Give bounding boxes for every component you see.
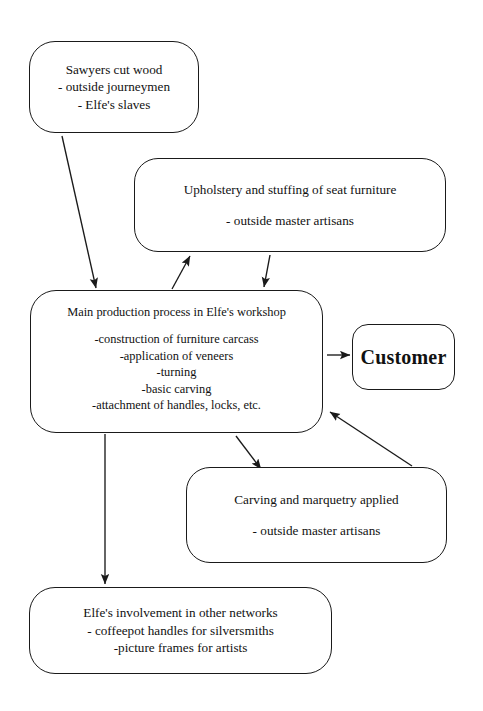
node-networks-line-2: - coffeepot handles for silversmiths xyxy=(87,622,274,639)
node-main-production-process: Main production process in Elfe's worksh… xyxy=(30,290,323,433)
node-sawyers-line-2: - outside journeymen xyxy=(58,78,170,95)
node-main-line-3: -turning xyxy=(157,364,197,380)
node-customer: Customer xyxy=(352,324,455,390)
node-networks-line-3: -picture frames for artists xyxy=(114,639,248,656)
node-sawyers-cut-wood: Sawyers cut wood - outside journeymen - … xyxy=(29,41,199,133)
diagram-canvas: Sawyers cut wood - outside journeymen - … xyxy=(0,0,483,711)
node-sawyers-line-1: Sawyers cut wood xyxy=(66,61,163,78)
node-upholstery-line-1: Upholstery and stuffing of seat furnitur… xyxy=(184,181,397,198)
node-main-line-5: -attachment of handles, locks, etc. xyxy=(92,397,261,413)
node-sawyers-line-3: - Elfe's slaves xyxy=(78,96,151,113)
node-networks-line-1: Elfe's involvement in other networks xyxy=(83,604,277,621)
node-customer-label: Customer xyxy=(360,344,446,370)
edge-upholstery-to-main xyxy=(264,255,270,287)
node-upholstery-stuffing: Upholstery and stuffing of seat furnitur… xyxy=(134,158,446,252)
edge-carving-to-main xyxy=(330,412,412,466)
node-upholstery-line-2: - outside master artisans xyxy=(226,212,354,229)
node-main-title: Main production process in Elfe's worksh… xyxy=(67,304,286,320)
node-carving-marquetry: Carving and marquetry applied - outside … xyxy=(186,467,447,563)
node-main-line-2: -application of veneers xyxy=(120,348,234,364)
edge-main-to-upholstery xyxy=(172,256,190,289)
edge-main-to-carving xyxy=(236,436,261,469)
node-main-line-4: -basic carving xyxy=(142,381,212,397)
node-main-line-1: -construction of furniture carcass xyxy=(94,331,258,347)
node-carving-line-2: - outside master artisans xyxy=(253,522,381,539)
node-other-networks: Elfe's involvement in other networks - c… xyxy=(29,587,332,674)
edge-sawyers-to-main xyxy=(62,136,96,288)
node-carving-line-1: Carving and marquetry applied xyxy=(234,491,398,508)
